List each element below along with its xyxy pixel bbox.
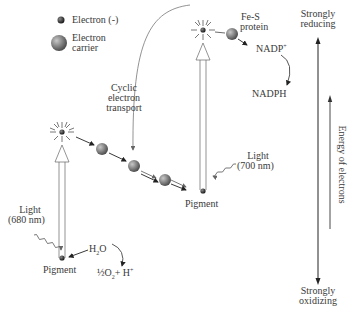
axis-top-line2: reducing xyxy=(293,19,343,29)
energy-axis-arrow-icon xyxy=(328,95,332,229)
photosynthesis-z-scheme-diagram: Electron (-) Electron carrier Cyclic ele… xyxy=(0,0,351,311)
oxygen-proton-label: ½O2+ H+ xyxy=(97,268,134,278)
light-680-wave-icon xyxy=(34,234,61,250)
chain-arrow-4b-icon xyxy=(171,184,186,190)
nadp-charge: + xyxy=(283,43,286,49)
chain-arrow-3a-icon xyxy=(141,171,156,178)
legend-electron-icon xyxy=(58,17,65,24)
nadp-reduction-arrow-icon xyxy=(281,55,290,85)
nadp-text: NADP xyxy=(256,43,283,54)
psii-excitation-arrow-icon xyxy=(55,145,69,258)
carrier-2-icon xyxy=(128,160,140,172)
legend-carrier-label-line2: carrier xyxy=(72,43,98,53)
light-700-label-line2: (700 nm) xyxy=(237,161,274,171)
psii-electron-icon xyxy=(59,129,64,134)
psi-electron-icon xyxy=(200,27,205,32)
water-to-pigment-arrow-icon xyxy=(69,250,88,257)
energy-axis-label: Energy of electrons xyxy=(337,115,348,215)
cyclic-label-line3: transport xyxy=(101,103,147,113)
chain-arrow-1-icon xyxy=(76,137,94,145)
carrier-1-icon xyxy=(96,143,108,155)
chain-arrow-2-icon xyxy=(109,153,126,161)
redox-axis-arrow-icon xyxy=(316,37,321,285)
nadp-label: NADP+ xyxy=(256,44,287,54)
psi-pigment-label: Pigment xyxy=(185,199,218,209)
fes-protein-carrier-icon xyxy=(226,28,238,40)
psii-pigment-label: Pigment xyxy=(43,265,76,275)
psii-pigment-icon xyxy=(59,255,64,260)
psi-excitation-arrow-icon xyxy=(196,43,210,190)
carrier-3-icon xyxy=(159,174,171,186)
legend-carrier-icon xyxy=(51,35,67,51)
water-splitting-arrow-icon xyxy=(112,244,123,266)
water-label: H2O xyxy=(89,244,106,254)
axis-bottom-line2: oxidizing xyxy=(293,296,343,306)
oxygen-text: ½O xyxy=(97,267,112,278)
psi-pigment-icon xyxy=(200,188,205,193)
fes-to-nadp-arrow-icon xyxy=(238,39,247,45)
legend-electron-label: Electron (-) xyxy=(72,15,118,25)
light-680-label-line2: (680 nm) xyxy=(8,215,45,225)
light-700-wave-icon xyxy=(213,164,236,177)
water-o: O xyxy=(99,243,106,254)
nadph-label: NADPH xyxy=(252,89,286,99)
cyclic-transport-arrow-icon xyxy=(133,5,190,150)
psi-to-fes-line-icon xyxy=(215,32,225,33)
proton-text: + H xyxy=(115,267,130,278)
chain-arrow-4a-icon xyxy=(171,180,186,187)
proton-charge: + xyxy=(130,267,133,273)
fes-label-line2: protein xyxy=(240,22,268,32)
